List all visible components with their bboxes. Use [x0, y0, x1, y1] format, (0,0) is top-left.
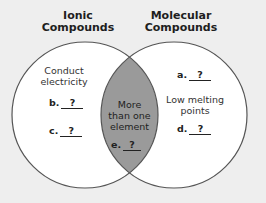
blank-b[interactable]: b.?	[49, 97, 83, 109]
answer-c[interactable]: ?	[60, 125, 82, 137]
conduct-electricity-text: Conduct electricity	[34, 65, 94, 87]
ionic-compounds-title: Ionic Compounds	[28, 10, 128, 34]
blank-c[interactable]: c.?	[49, 125, 82, 137]
molecular-compounds-title: Molecular Compounds	[130, 10, 232, 34]
blank-d[interactable]: d.?	[177, 123, 211, 135]
blank-a[interactable]: a.?	[177, 69, 211, 81]
venn-diagram: Ionic Compounds Molecular Compounds Cond…	[0, 0, 266, 203]
answer-d[interactable]: ?	[189, 123, 211, 135]
low-melting-points-text: Low melting points	[160, 94, 230, 116]
blank-e[interactable]: e.?	[111, 139, 141, 151]
answer-b[interactable]: ?	[61, 97, 83, 109]
answer-a[interactable]: ?	[189, 69, 211, 81]
more-than-one-element-text: More than one element	[102, 99, 157, 132]
answer-e[interactable]: ?	[123, 139, 141, 151]
